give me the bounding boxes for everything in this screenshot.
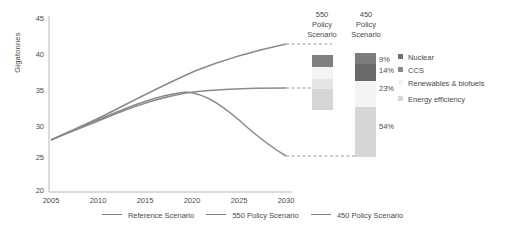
plot-area bbox=[0, 0, 505, 232]
series-legend-item-450: 450 Policy Scenario bbox=[311, 210, 403, 220]
series-legend-label-450: 450 Policy Scenario bbox=[337, 211, 403, 220]
series-legend-label-reference: Reference Scenario bbox=[128, 211, 194, 220]
series-legend-item-550: 550 Policy Scenario bbox=[206, 210, 298, 220]
series-legend-label-550: 550 Policy Scenario bbox=[232, 211, 298, 220]
legend-label-nuclear: Nuclear bbox=[408, 53, 434, 62]
bar-450-segment-efficiency bbox=[355, 107, 376, 157]
line-550-policy-scenario bbox=[51, 88, 286, 140]
column-header-450-line3: Scenario bbox=[342, 30, 390, 40]
efficiency-swatch-icon bbox=[398, 96, 403, 101]
column-header-550-line2: Policy bbox=[298, 20, 346, 30]
p550-line-icon bbox=[206, 214, 226, 215]
bar-550-segment-renewables bbox=[312, 79, 333, 89]
ccs-swatch-icon bbox=[398, 67, 403, 72]
bar-550-segment-nuclear bbox=[312, 55, 333, 67]
legend-item-renewables: Renewables & biofuels bbox=[398, 78, 484, 88]
percent-efficiency: 54% bbox=[379, 122, 403, 131]
bar-550-segment-efficiency bbox=[312, 89, 333, 110]
series-legend-item-reference: Reference Scenario bbox=[102, 210, 194, 220]
line-450-policy-scenario bbox=[51, 92, 286, 156]
nuclear-swatch-icon bbox=[398, 54, 403, 59]
legend-item-nuclear: Nuclear bbox=[398, 52, 434, 62]
reference-line-icon bbox=[102, 214, 122, 215]
stacked-bar-450 bbox=[355, 53, 376, 157]
column-header-450-line1: 450 bbox=[342, 10, 390, 20]
column-header-550-line3: Scenario bbox=[298, 30, 346, 40]
emissions-scenario-chart: Gigatonnes 45 40 35 30 25 20 2005 2010 2… bbox=[0, 0, 505, 232]
column-header-550: 550 Policy Scenario bbox=[298, 10, 346, 40]
column-header-450: 450 Policy Scenario bbox=[342, 10, 390, 40]
bar-450-segment-ccs bbox=[355, 64, 376, 81]
legend-item-efficiency: Energy efficiency bbox=[398, 94, 465, 104]
stacked-bar-550 bbox=[312, 55, 333, 110]
renewables-swatch-icon bbox=[398, 80, 403, 85]
column-header-550-line1: 550 bbox=[298, 10, 346, 20]
legend-item-ccs: CCS bbox=[398, 65, 424, 75]
legend-label-ccs: CCS bbox=[408, 66, 424, 75]
bar-450-segment-renewables bbox=[355, 81, 376, 107]
bar-450-segment-nuclear bbox=[355, 53, 376, 64]
column-header-450-line2: Policy bbox=[342, 20, 390, 30]
series-legend: Reference Scenario 550 Policy Scenario 4… bbox=[0, 210, 505, 220]
bar-550-segment-ccs bbox=[312, 67, 333, 79]
legend-label-efficiency: Energy efficiency bbox=[408, 95, 465, 104]
p450-line-icon bbox=[311, 214, 331, 215]
legend-label-renewables: Renewables & biofuels bbox=[408, 79, 484, 88]
